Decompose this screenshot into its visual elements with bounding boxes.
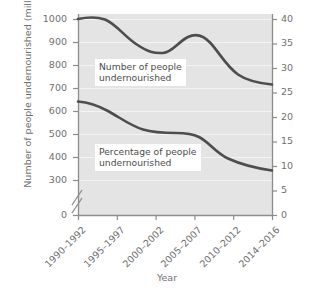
y-right-tick-40: 40 xyxy=(281,13,307,24)
y-left-tick-600: 600 xyxy=(33,105,67,116)
annotation-percentage-undernourished: Percentage of people undernourished xyxy=(95,144,201,171)
y-right-tick-25: 25 xyxy=(281,86,307,97)
annotation-number-line1: Number of people xyxy=(99,61,182,72)
y-left-tick-0: 0 xyxy=(33,209,67,220)
y-left-tick-300: 300 xyxy=(33,174,67,185)
y-right-tick-35: 35 xyxy=(281,37,307,48)
annotation-number-line2: undernourished xyxy=(99,72,171,83)
annotation-percentage-line2: undernourished xyxy=(99,157,171,168)
y-left-tick-500: 500 xyxy=(33,128,67,139)
y-right-tick-0: 0 xyxy=(281,209,307,220)
y-right-tick-5: 5 xyxy=(281,184,307,195)
y-left-tick-400: 400 xyxy=(33,151,67,162)
y-right-tick-20: 20 xyxy=(281,111,307,122)
plot-background xyxy=(78,14,272,215)
y-left-tick-900: 900 xyxy=(33,36,67,47)
y-right-tick-15: 15 xyxy=(281,135,307,146)
y-axis-left-title: Number of people undernourished (million… xyxy=(22,40,34,188)
annotation-number-undernourished: Number of people undernourished xyxy=(95,59,186,86)
y-right-tick-10: 10 xyxy=(281,160,307,171)
chart-figure: 1000 900 800 700 600 500 400 300 0 40 35… xyxy=(0,0,334,291)
y-left-tick-1000: 1000 xyxy=(33,13,67,24)
y-right-tick-30: 30 xyxy=(281,62,307,73)
annotation-percentage-line1: Percentage of people xyxy=(99,146,197,157)
y-left-tick-700: 700 xyxy=(33,82,67,93)
left-axis-ticks xyxy=(73,20,78,216)
x-axis-title: Year xyxy=(0,272,334,284)
y-left-tick-800: 800 xyxy=(33,59,67,70)
